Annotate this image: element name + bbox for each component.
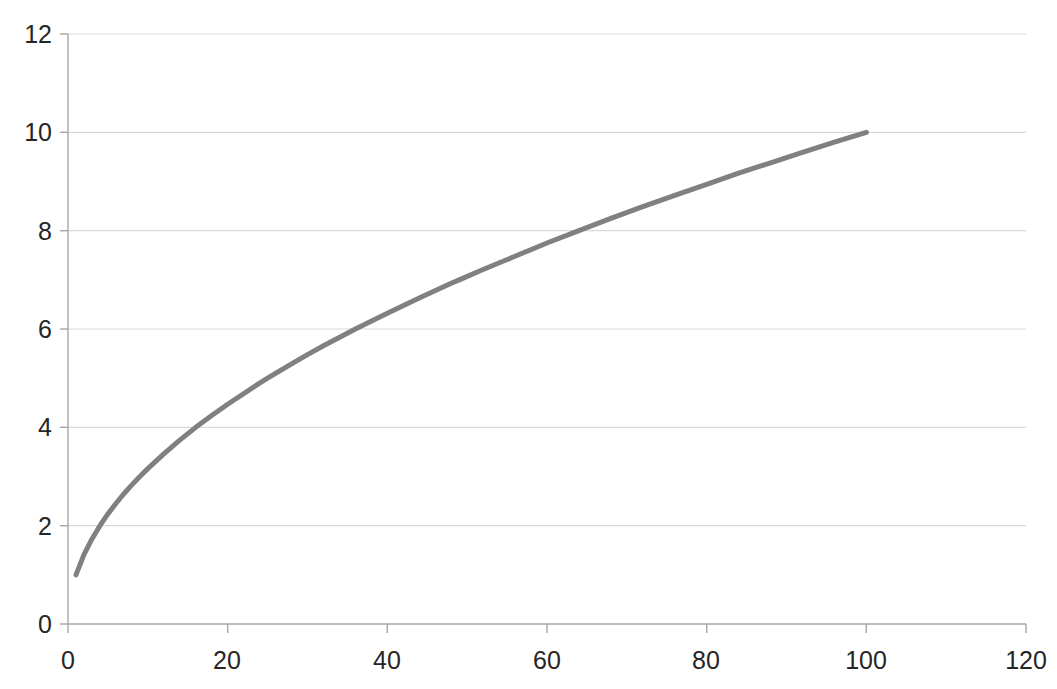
x-tick-label-60: 60 — [507, 648, 587, 673]
x-tick-label-40: 40 — [347, 648, 427, 673]
y-tick-label-2: 2 — [0, 514, 52, 539]
y-tick-label-6: 6 — [0, 317, 52, 342]
x-tick-label-0: 0 — [28, 648, 108, 673]
y-axis-ticks — [60, 34, 68, 624]
x-axis-ticks — [68, 624, 1026, 633]
y-tick-label-8: 8 — [0, 219, 52, 244]
y-tick-label-0: 0 — [0, 612, 52, 637]
x-tick-label-80: 80 — [666, 648, 746, 673]
y-tick-label-4: 4 — [0, 415, 52, 440]
chart-container: 12 10 8 6 4 2 0 0 20 40 60 80 100 120 — [0, 0, 1057, 689]
y-tick-label-12: 12 — [0, 22, 52, 47]
chart-plot-area — [0, 0, 1057, 689]
gridlines — [68, 34, 1026, 526]
series-line-sqrt-x — [76, 132, 866, 575]
x-tick-label-120: 120 — [986, 648, 1057, 673]
y-tick-label-10: 10 — [0, 120, 52, 145]
x-tick-label-100: 100 — [826, 648, 906, 673]
x-tick-label-20: 20 — [187, 648, 267, 673]
